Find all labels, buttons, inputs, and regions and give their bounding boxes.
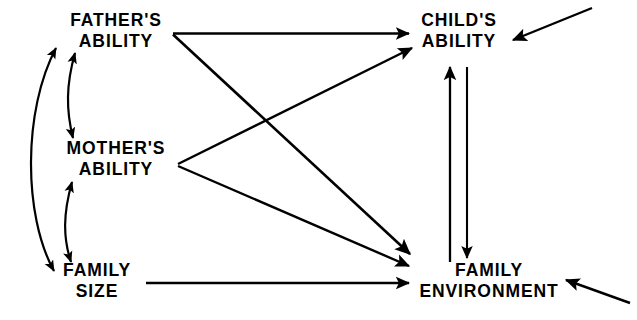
edge-fathers-family-size-correlation <box>31 48 56 271</box>
node-mothers-ability-line2: ABILITY <box>67 159 166 180</box>
node-fathers-ability-line2: ABILITY <box>70 31 162 52</box>
edge-mothers-to-family-environment <box>178 166 409 266</box>
node-fathers-ability: FATHER'S ABILITY <box>70 10 162 52</box>
node-family-size-line1: FAMILY <box>63 260 131 281</box>
node-mothers-ability-line1: MOTHER'S <box>67 138 166 159</box>
edge-external-input-childs-ability <box>513 8 592 40</box>
node-mothers-ability: MOTHER'S ABILITY <box>67 138 166 180</box>
node-family-environment-line1: FAMILY <box>419 260 558 281</box>
node-family-environment: FAMILY ENVIRONMENT <box>419 260 558 302</box>
node-family-size: FAMILY SIZE <box>63 260 131 302</box>
node-family-environment-line2: ENVIRONMENT <box>419 281 558 302</box>
node-family-size-line2: SIZE <box>63 281 131 302</box>
edge-fathers-mothers-correlation <box>68 53 75 138</box>
edge-external-input-family-environment <box>566 280 630 303</box>
node-childs-ability: CHILD'S ABILITY <box>421 10 497 52</box>
path-diagram-canvas: FATHER'S ABILITY MOTHER'S ABILITY FAMILY… <box>0 0 637 320</box>
node-childs-ability-line2: ABILITY <box>421 31 497 52</box>
node-fathers-ability-line1: FATHER'S <box>70 10 162 31</box>
node-childs-ability-line1: CHILD'S <box>421 10 497 31</box>
edge-mothers-family-size-correlation <box>65 182 72 262</box>
